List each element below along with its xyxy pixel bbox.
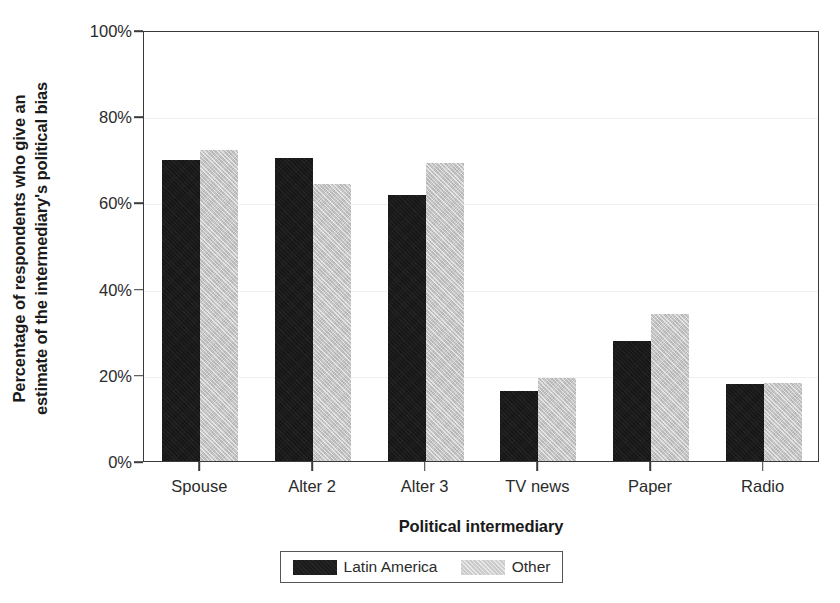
gridline bbox=[144, 118, 818, 119]
x-axis-tick-label: Radio bbox=[693, 477, 833, 496]
plot-area-frame bbox=[143, 31, 819, 462]
y-axis-tick-mark bbox=[134, 289, 143, 291]
x-axis-tick-mark bbox=[537, 462, 539, 471]
legend-label: Latin America bbox=[344, 558, 438, 576]
gridline bbox=[144, 291, 818, 292]
gridline bbox=[144, 377, 818, 378]
bar-spouse-other bbox=[200, 150, 238, 461]
x-axis-tick-mark bbox=[199, 462, 201, 471]
bar-radio-other bbox=[764, 383, 802, 461]
y-axis-tick-label: 80% bbox=[62, 108, 132, 127]
light-swatch bbox=[461, 560, 505, 575]
bar-chart-figure: Percentage of respondents who give an es… bbox=[0, 0, 840, 603]
x-axis-tick-mark bbox=[311, 462, 313, 471]
x-axis-tick-mark bbox=[424, 462, 426, 471]
bar-alter-3-other bbox=[426, 163, 464, 461]
y-axis-title-line-2: estimate of the intermediary's political… bbox=[31, 0, 53, 497]
y-axis-tick-label: 60% bbox=[62, 194, 132, 213]
y-axis-tick-label: 0% bbox=[62, 453, 132, 472]
y-axis-title-line-1: Percentage of respondents who give an bbox=[9, 0, 31, 497]
y-axis-tick-label: 40% bbox=[62, 280, 132, 299]
y-axis-tick-mark bbox=[134, 375, 143, 377]
plot-area bbox=[144, 32, 818, 461]
bar-paper-other bbox=[651, 314, 689, 461]
y-axis-title: Percentage of respondents who give an es… bbox=[0, 0, 62, 497]
bar-tv-news-other bbox=[538, 378, 576, 461]
bar-radio-latin-america bbox=[726, 384, 764, 461]
y-axis-tick-mark bbox=[134, 30, 143, 32]
y-axis-title-container: Percentage of respondents who give an es… bbox=[0, 0, 62, 500]
bar-spouse-latin-america bbox=[162, 160, 200, 461]
bar-paper-latin-america bbox=[613, 341, 651, 461]
bar-alter-2-other bbox=[313, 184, 351, 461]
y-axis-tick-label: 100% bbox=[62, 22, 132, 41]
bar-alter-3-latin-america bbox=[388, 195, 426, 461]
y-axis-tick-mark bbox=[134, 203, 143, 205]
chart-legend: Latin AmericaOther bbox=[280, 551, 563, 583]
bar-alter-2-latin-america bbox=[275, 158, 313, 461]
x-axis-tick-mark bbox=[649, 462, 651, 471]
legend-item: Other bbox=[461, 558, 551, 576]
x-axis-tick-mark bbox=[762, 462, 764, 471]
x-axis-title: Political intermediary bbox=[143, 517, 819, 536]
legend-item: Latin America bbox=[293, 558, 438, 576]
legend-label: Other bbox=[512, 558, 551, 576]
y-axis-tick-mark bbox=[134, 461, 143, 463]
y-axis-tick-label: 20% bbox=[62, 366, 132, 385]
gridline bbox=[144, 204, 818, 205]
bar-tv-news-latin-america bbox=[500, 391, 538, 461]
y-axis-tick-mark bbox=[134, 116, 143, 118]
dark-swatch bbox=[293, 560, 337, 575]
